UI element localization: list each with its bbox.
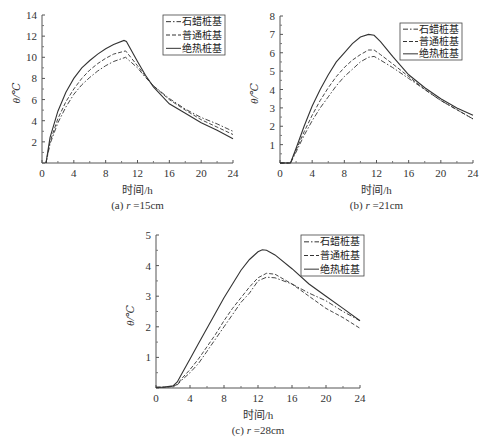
x-tick-label: 0 bbox=[277, 167, 283, 179]
chart-c-r28cm: 0481216202412345时间/hθ/℃(c) r =28cm石蜡桩基普通… bbox=[124, 229, 366, 437]
y-axis-title: θ/℃ bbox=[124, 304, 136, 325]
y-tick-label: 1 bbox=[270, 139, 276, 151]
y-axis-title: θ/℃ bbox=[248, 82, 260, 103]
y-tick-label: 4 bbox=[32, 115, 38, 127]
series-line-dashdot bbox=[280, 56, 473, 163]
x-tick-label: 0 bbox=[39, 167, 45, 179]
x-tick-label: 8 bbox=[221, 392, 227, 404]
x-tick-label: 8 bbox=[103, 167, 109, 179]
x-tick-label: 16 bbox=[403, 167, 415, 179]
y-tick-label: 8 bbox=[270, 10, 276, 22]
series-line-dashdot bbox=[46, 57, 233, 163]
legend-label: 石蜡桩基 bbox=[320, 235, 360, 247]
plot-area bbox=[46, 40, 233, 163]
legend: 石蜡桩基普通桩基绝热桩基 bbox=[163, 15, 225, 55]
x-tick-label: 12 bbox=[253, 392, 264, 404]
y-tick-label: 12 bbox=[26, 30, 37, 42]
legend-label: 普通桩基 bbox=[419, 35, 459, 47]
x-tick-label: 0 bbox=[153, 392, 159, 404]
y-tick-label: 2 bbox=[32, 136, 38, 148]
series-line-solid bbox=[46, 40, 233, 163]
y-tick-label: 2 bbox=[270, 120, 276, 132]
x-tick-label: 20 bbox=[435, 167, 447, 179]
subfigure-caption: (a) r =15cm bbox=[111, 199, 164, 212]
caption-prefix: (a) bbox=[111, 199, 126, 212]
caption-value: =21cm bbox=[370, 199, 404, 211]
chart-b-r21cm: 0481216202412345678时间/hθ/℃(b) r =21cm石蜡桩… bbox=[248, 10, 479, 212]
x-tick-label: 16 bbox=[287, 392, 299, 404]
x-tick-label: 12 bbox=[132, 167, 143, 179]
x-tick-label: 8 bbox=[342, 167, 348, 179]
y-tick-label: 6 bbox=[270, 47, 276, 59]
caption-value: =28cm bbox=[251, 424, 285, 436]
legend-label: 绝热桩基 bbox=[320, 263, 360, 275]
x-tick-label: 24 bbox=[228, 167, 240, 179]
legend-label: 普通桩基 bbox=[320, 249, 360, 261]
x-axis-title: 时间/h bbox=[243, 409, 274, 421]
caption-value: =15cm bbox=[130, 199, 164, 211]
x-tick-label: 16 bbox=[164, 167, 176, 179]
y-tick-label: 3 bbox=[146, 290, 152, 302]
y-tick-label: 2 bbox=[146, 321, 152, 333]
y-tick-label: 3 bbox=[270, 102, 276, 114]
legend: 石蜡桩基普通桩基绝热桩基 bbox=[400, 23, 462, 60]
x-axis-title: 时间/h bbox=[122, 184, 153, 196]
x-tick-label: 4 bbox=[187, 392, 193, 404]
y-tick-label: 1 bbox=[146, 351, 152, 363]
caption-prefix: (c) bbox=[232, 424, 247, 437]
y-axis-title: θ/℃ bbox=[10, 82, 22, 103]
y-tick-label: 7 bbox=[270, 28, 276, 40]
x-tick-label: 24 bbox=[355, 392, 367, 404]
y-tick-label: 10 bbox=[26, 51, 38, 63]
legend-label: 石蜡桩基 bbox=[182, 15, 222, 27]
x-tick-label: 20 bbox=[196, 167, 208, 179]
x-tick-label: 4 bbox=[71, 167, 77, 179]
series-line-dashed bbox=[280, 50, 473, 163]
subfigure-caption: (b) r =21cm bbox=[350, 199, 404, 212]
x-tick-label: 4 bbox=[309, 167, 315, 179]
x-axis-title: 时间/h bbox=[361, 184, 392, 196]
y-tick-label: 8 bbox=[32, 72, 38, 84]
legend-label: 石蜡桩基 bbox=[419, 23, 459, 35]
y-tick-label: 4 bbox=[270, 84, 276, 96]
x-tick-label: 24 bbox=[468, 167, 480, 179]
x-tick-label: 12 bbox=[371, 167, 382, 179]
x-tick-label: 20 bbox=[321, 392, 333, 404]
subfigure-caption: (c) r =28cm bbox=[232, 424, 285, 437]
chart-a-r15cm: 048121620242468101214时间/hθ/℃(a) r =15cm石… bbox=[10, 9, 239, 212]
legend-label: 绝热桩基 bbox=[182, 42, 222, 54]
y-tick-label: 6 bbox=[32, 94, 38, 106]
legend-label: 绝热桩基 bbox=[419, 47, 459, 59]
figure-canvas: 048121620242468101214时间/hθ/℃(a) r =15cm石… bbox=[0, 0, 491, 441]
legend-label: 普通桩基 bbox=[182, 29, 222, 41]
y-tick-label: 4 bbox=[146, 260, 152, 272]
series-line-dashdot bbox=[156, 277, 360, 387]
caption-prefix: (b) bbox=[350, 199, 366, 212]
y-tick-label: 5 bbox=[270, 65, 276, 77]
series-line-dashed bbox=[46, 51, 233, 163]
series-line-dashed bbox=[156, 273, 360, 387]
y-tick-label: 5 bbox=[146, 229, 152, 241]
y-tick-label: 14 bbox=[26, 9, 38, 21]
legend: 石蜡桩基普通桩基绝热桩基 bbox=[301, 235, 364, 276]
